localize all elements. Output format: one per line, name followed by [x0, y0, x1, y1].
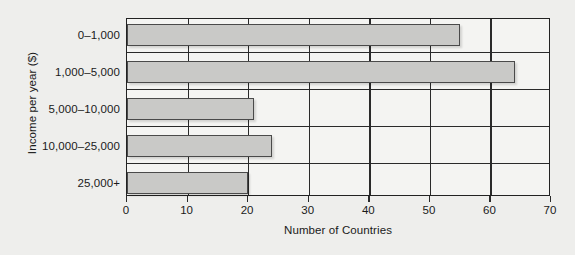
y-tick-label: 0–1,000 — [36, 29, 120, 41]
x-tick-mark — [126, 196, 127, 202]
horizontal-gridline — [127, 126, 549, 127]
bar-1000-5000 — [127, 61, 515, 83]
x-tick-label: 50 — [422, 204, 435, 216]
vertical-gridline — [490, 19, 491, 195]
x-tick-label: 10 — [180, 204, 193, 216]
chart-figure: Income per year ($) 0–1,000 1,000–5,000 … — [0, 0, 575, 255]
x-axis-title: Number of Countries — [126, 224, 550, 236]
horizontal-gridline — [127, 89, 549, 90]
y-tick-label: 5,000–10,000 — [36, 103, 120, 115]
horizontal-gridline — [127, 52, 549, 53]
x-tick-mark — [368, 196, 369, 202]
bar-5000-10000 — [127, 98, 254, 120]
x-tick-label: 20 — [241, 204, 254, 216]
y-tick-label: 1,000–5,000 — [36, 66, 120, 78]
x-tick-label: 30 — [301, 204, 314, 216]
y-tick-label: 10,000–25,000 — [36, 140, 120, 152]
x-tick-mark — [429, 196, 430, 202]
x-tick-mark — [187, 196, 188, 202]
x-tick-mark — [550, 196, 551, 202]
x-tick-label: 60 — [483, 204, 496, 216]
bar-10000-25000 — [127, 135, 272, 157]
x-tick-label: 70 — [544, 204, 557, 216]
x-tick-mark — [489, 196, 490, 202]
x-tick-label: 40 — [362, 204, 375, 216]
x-tick-mark — [247, 196, 248, 202]
x-tick-label: 0 — [123, 204, 129, 216]
bar-0-1000 — [127, 24, 460, 46]
y-axis-tick-labels: 0–1,000 1,000–5,000 5,000–10,000 10,000–… — [36, 0, 120, 255]
horizontal-gridline — [127, 163, 549, 164]
y-tick-label: 25,000+ — [36, 177, 120, 189]
plot-area — [126, 18, 550, 196]
bar-25000-plus — [127, 172, 248, 194]
x-tick-mark — [308, 196, 309, 202]
